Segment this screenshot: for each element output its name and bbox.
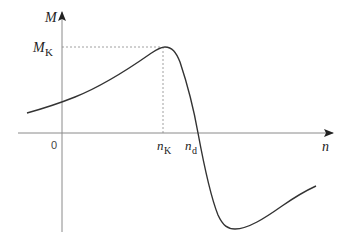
svg-text:M: M: [32, 40, 46, 55]
peak-speed-label: n K: [157, 138, 172, 156]
svg-text:d: d: [192, 145, 197, 156]
svg-text:K: K: [164, 145, 172, 156]
svg-text:n: n: [157, 138, 164, 153]
svg-text:K: K: [45, 46, 53, 58]
torque-speed-diagram: M M K 0 n K n d n: [0, 0, 347, 244]
peak-torque-label: M K: [32, 40, 53, 58]
origin-label: 0: [51, 139, 57, 151]
torque-curve: [27, 47, 316, 229]
svg-text:n: n: [185, 138, 192, 153]
y-axis-label: M: [44, 10, 58, 25]
zero-crossing-label: n d: [185, 138, 197, 156]
x-axis-label: n: [322, 139, 329, 154]
